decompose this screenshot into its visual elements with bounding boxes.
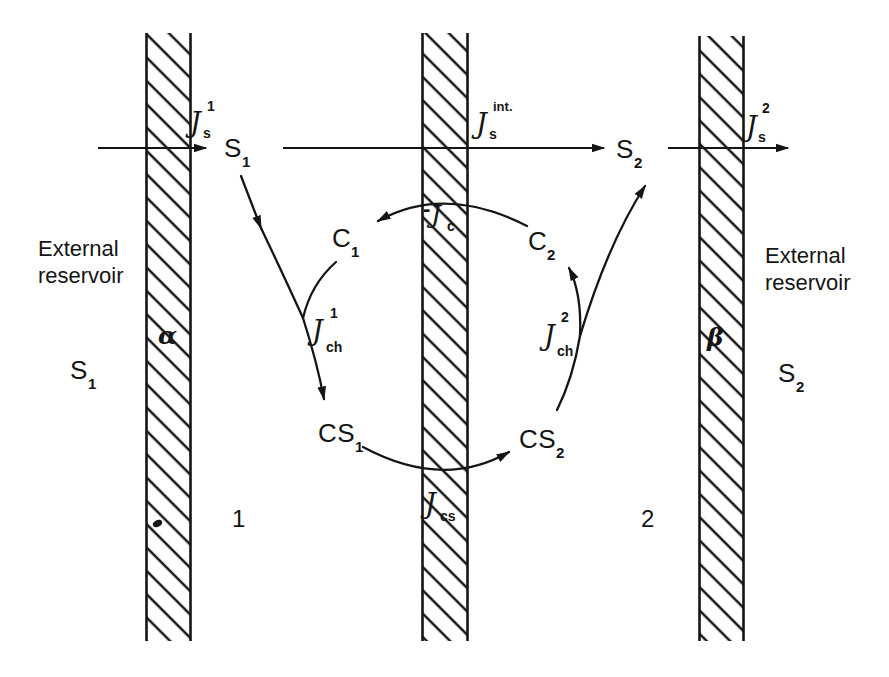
svg-text:S: S <box>616 134 634 164</box>
flux-label-js-int: J int. s <box>471 99 513 142</box>
svg-text:2: 2 <box>634 154 642 171</box>
svg-text:ch: ch <box>326 339 342 355</box>
svg-text:S: S <box>778 358 796 388</box>
species-label-c2: C 2 <box>528 226 555 263</box>
svg-text:2: 2 <box>796 378 804 395</box>
svg-text:2: 2 <box>547 246 555 263</box>
svg-text:2: 2 <box>556 444 564 461</box>
svg-text:1: 1 <box>88 375 96 392</box>
compartment-2-label: 2 <box>641 505 654 532</box>
svg-text:C: C <box>332 223 351 253</box>
svg-text:J: J <box>539 320 557 351</box>
svg-text:1: 1 <box>351 243 359 260</box>
species-label-s1: S 1 <box>224 133 250 170</box>
svg-text:CS: CS <box>519 424 556 454</box>
svg-text:2: 2 <box>561 309 569 325</box>
left-reservoir-label-line1: External <box>38 236 119 261</box>
flux-label-js2: J 2 s <box>741 100 770 145</box>
svg-text:J: J <box>471 108 489 139</box>
svg-text:1: 1 <box>242 153 250 170</box>
svg-text:s: s <box>758 129 766 145</box>
flux-label-jch2: J 2 ch <box>539 309 573 359</box>
right-reservoir-label-line2: reservoir <box>765 270 851 295</box>
svg-text:1: 1 <box>207 98 215 114</box>
svg-text:1: 1 <box>330 305 338 321</box>
membrane-transport-figure: External reservoir S 1 α 1 J 1 s S 1 J i… <box>0 0 889 677</box>
right-reservoir-species-s2: S 2 <box>778 358 804 395</box>
membrane-beta-label: β <box>706 323 724 352</box>
right-reservoir-label-line1: External <box>765 243 846 268</box>
species-label-cs2: CS 2 <box>519 424 564 461</box>
svg-text:-: - <box>423 196 430 221</box>
svg-text:int.: int. <box>493 99 513 114</box>
arrow-merge-to-s2 <box>580 186 645 336</box>
svg-text:2: 2 <box>762 100 770 116</box>
svg-text:cs: cs <box>440 508 456 524</box>
arrow-merge-to-c2 <box>569 268 580 336</box>
svg-text:C: C <box>528 226 547 256</box>
membrane-alpha-label: α <box>158 321 177 350</box>
left-reservoir-species-s1: S 1 <box>70 355 96 392</box>
svg-text:s: s <box>203 125 211 141</box>
species-label-cs1: CS 1 <box>318 418 363 455</box>
svg-text:S: S <box>70 355 88 385</box>
svg-text:S: S <box>224 133 242 163</box>
left-reservoir-label-line2: reservoir <box>38 263 124 288</box>
compartment-1-label: 1 <box>232 505 245 532</box>
svg-text:ch: ch <box>557 343 573 359</box>
species-label-s2: S 2 <box>616 134 642 171</box>
species-label-c1: C 1 <box>332 223 359 260</box>
membrane-center-hatch <box>422 33 468 641</box>
carrier-cycle-diagram: External reservoir S 1 α 1 J 1 s S 1 J i… <box>0 0 889 677</box>
membrane-center <box>422 33 468 641</box>
curve-s1-to-merge <box>261 228 303 318</box>
arrow-s1-binding <box>241 176 261 228</box>
svg-text:s: s <box>489 126 497 142</box>
svg-text:CS: CS <box>318 418 355 448</box>
svg-text:c: c <box>447 218 455 234</box>
svg-text:1: 1 <box>355 438 363 455</box>
